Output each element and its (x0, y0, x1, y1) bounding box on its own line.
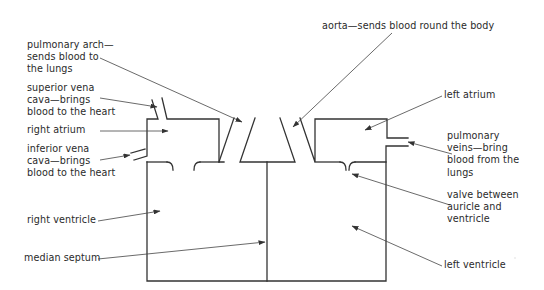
aorta-trapezoid (240, 118, 295, 162)
label-valve: valve between auricle and ventricle (447, 189, 519, 226)
label-left-ventricle: left ventricle (444, 259, 506, 271)
leader-right-ventricle (98, 211, 160, 221)
leader-median-septum (98, 242, 265, 259)
leader-left-ventricle (352, 226, 442, 266)
right-valve-flap-right (194, 162, 200, 170)
inferior-vena-cava-upper (131, 149, 145, 153)
label-right-atrium: right atrium (27, 124, 85, 136)
left-atrium-wall (300, 118, 408, 162)
left-valve-flap-right (349, 162, 355, 170)
leader-valve (352, 174, 450, 205)
label-median-septum: median septum (24, 252, 101, 264)
label-pulmonary-arch: pulmonary arch— sends blood to the lungs (27, 39, 114, 76)
label-superior-vena-cava: superior vena cava—brings blood to the h… (27, 82, 115, 119)
right-valve-flap-left (167, 162, 173, 170)
leader-aorta (293, 33, 392, 127)
heart-outline (131, 98, 408, 281)
leader-lines (98, 33, 452, 266)
leader-pulmonary-arch (100, 58, 242, 122)
superior-vena-cava (162, 98, 224, 162)
label-inferior-vena-cava: inferior vena cava—brings blood to the h… (27, 143, 115, 180)
label-right-ventricle: right ventricle (27, 214, 96, 226)
right-heart-wall (147, 146, 408, 281)
left-valve-flap-left (340, 162, 346, 170)
pulmonary-arch-left-wall (219, 118, 234, 162)
label-left-atrium: left atrium (444, 89, 495, 101)
leader-pulmonary-veins (408, 142, 452, 154)
leader-left-atrium (365, 96, 442, 130)
label-aorta: aorta—sends blood round the body (322, 20, 494, 32)
label-pulmonary-veins: pulmonary veins—bring blood from the lun… (447, 130, 519, 179)
